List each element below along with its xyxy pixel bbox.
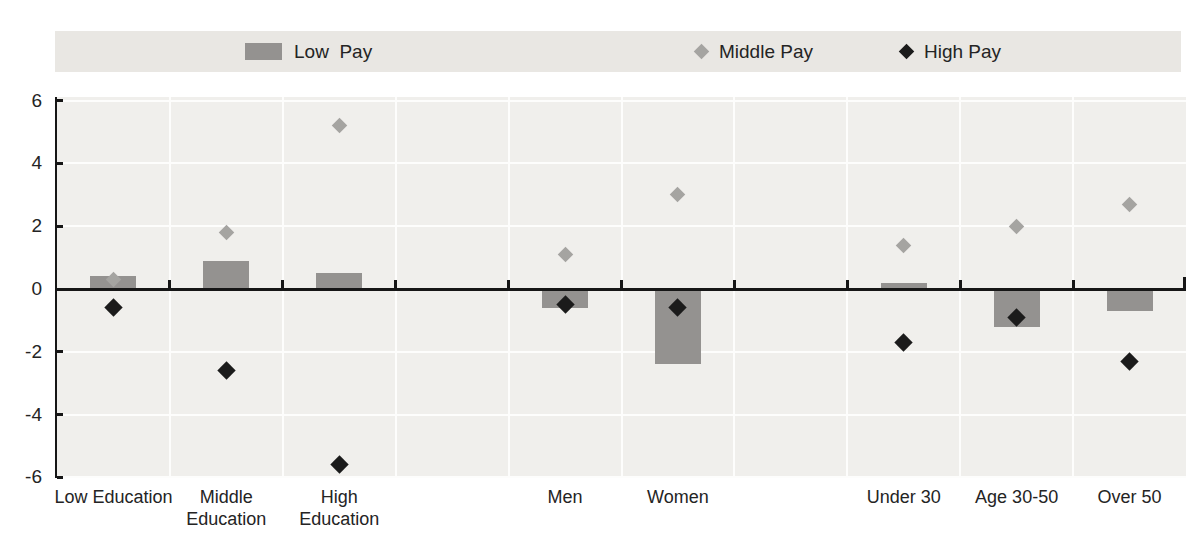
y-axis-tick (57, 99, 63, 102)
x-category-label: Low Education (48, 486, 178, 508)
y-axis-tick (57, 413, 63, 416)
zero-axis-end-cap (1183, 277, 1186, 289)
bar-chart: Low Pay Middle Pay High Pay 6420-2-4-6Lo… (0, 0, 1198, 546)
legend-item-low-pay: Low Pay (245, 41, 372, 63)
y-tick-label: 0 (0, 278, 42, 300)
y-axis-tick (57, 476, 63, 479)
y-axis-tick (57, 225, 63, 228)
zero-axis-tick (620, 280, 623, 289)
x-category-label-line: Women (613, 486, 743, 508)
legend-item-middle-pay: Middle Pay (696, 41, 813, 63)
x-category-label: MiddleEducation (161, 486, 291, 530)
y-tick-label: 6 (0, 90, 42, 112)
y-tick-label: -6 (0, 466, 42, 488)
x-category-label-line: Middle (161, 486, 291, 508)
chart-legend: Low Pay Middle Pay High Pay (55, 31, 1181, 72)
x-category-label-line: Men (500, 486, 630, 508)
low-pay-bar-swatch-icon (245, 43, 282, 60)
zero-axis-tick (846, 280, 849, 289)
x-category-label: Women (613, 486, 743, 508)
zero-axis-tick (1072, 280, 1075, 289)
y-tick-label: 2 (0, 215, 42, 237)
x-category-label: Age 30-50 (952, 486, 1082, 508)
zero-axis-tick (394, 280, 397, 289)
x-category-label: Under 30 (839, 486, 969, 508)
y-axis-tick (57, 162, 63, 165)
high-pay-diamond-icon (899, 44, 915, 60)
x-category-label: HighEducation (274, 486, 404, 530)
x-category-label-line: Over 50 (1065, 486, 1195, 508)
x-category-label-line: Low Education (48, 486, 178, 508)
zero-axis-tick (507, 280, 510, 289)
x-category-label: Over 50 (1065, 486, 1195, 508)
legend-label-middle-pay: Middle Pay (719, 41, 813, 63)
zero-axis-tick (733, 280, 736, 289)
bar-low-pay (1107, 289, 1153, 311)
x-category-label-line: Under 30 (839, 486, 969, 508)
x-category-label-line: Education (274, 508, 404, 530)
x-category-label-line: Education (161, 508, 291, 530)
middle-pay-diamond-icon (694, 44, 710, 60)
x-category-label-line: High (274, 486, 404, 508)
y-tick-label: -4 (0, 404, 42, 426)
x-category-label: Men (500, 486, 630, 508)
legend-label-high-pay: High Pay (924, 41, 1001, 63)
y-tick-label: -2 (0, 341, 42, 363)
legend-item-high-pay: High Pay (901, 41, 1001, 63)
zero-axis-tick (959, 280, 962, 289)
y-tick-label: 4 (0, 152, 42, 174)
zero-axis-tick (281, 280, 284, 289)
y-axis-tick (57, 350, 63, 353)
x-category-label-line: Age 30-50 (952, 486, 1082, 508)
zero-axis-tick (168, 280, 171, 289)
legend-label-low-pay: Low Pay (294, 41, 372, 63)
bar-low-pay (203, 261, 249, 289)
